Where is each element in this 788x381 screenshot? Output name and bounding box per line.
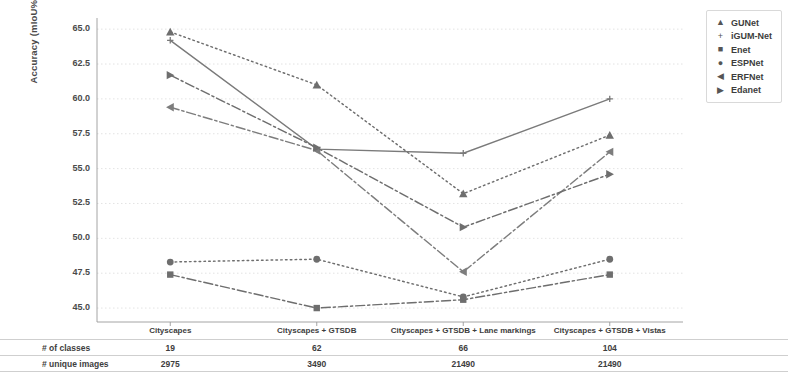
x-category-4: Cityscapes + GTSDB + Vistas [500, 326, 720, 335]
gridlines [97, 29, 683, 308]
line-chart-svg [0, 0, 788, 381]
legend-label: iGUM-Net [731, 31, 772, 41]
series-espnet [167, 256, 613, 300]
legend-item-edanet[interactable]: ▶Edanet [713, 84, 772, 98]
legend-marker-icon: ◀ [713, 72, 728, 81]
table-cell: 104 [537, 343, 684, 353]
legend-item-erfnet[interactable]: ◀ERFNet [713, 70, 772, 84]
table-cell: 66 [390, 343, 537, 353]
table-row: # unique images297534902149021490 [0, 356, 788, 372]
table-cell: 62 [244, 343, 391, 353]
chart-legend: ▲GUNet+iGUM-Net■Enet●ESPNet◀ERFNet▶Edane… [706, 10, 782, 103]
legend-label: ESPNet [731, 58, 764, 68]
series-layer [166, 28, 614, 312]
plot-area: Accuracy (mIoU%) 45.047.550.052.555.057.… [0, 0, 788, 381]
legend-marker-icon: ■ [713, 45, 728, 54]
legend-label: GUNet [731, 18, 759, 28]
table-cell: 19 [97, 343, 244, 353]
annotation-table: # of classes196266104# unique images2975… [0, 339, 788, 372]
legend-marker-icon: + [713, 32, 728, 41]
legend-marker-icon: ▲ [713, 18, 728, 27]
chart-page: Accuracy (mIoU%) 45.047.550.052.555.057.… [0, 0, 788, 381]
table-row: # of classes196266104 [0, 339, 788, 356]
table-cell: 2975 [97, 359, 244, 369]
legend-item-gunet[interactable]: ▲GUNet [713, 16, 772, 30]
table-cell: 3490 [244, 359, 391, 369]
table-cell: 21490 [537, 359, 684, 369]
series-gunet [166, 28, 614, 198]
legend-item-igum-net[interactable]: +iGUM-Net [713, 30, 772, 44]
table-cell: 21490 [390, 359, 537, 369]
legend-marker-icon: ▶ [713, 86, 728, 95]
legend-label: ERFNet [731, 72, 764, 82]
legend-label: Enet [731, 45, 751, 55]
legend-label: Edanet [731, 85, 761, 95]
series-erfnet [166, 103, 613, 276]
legend-marker-icon: ● [713, 59, 728, 68]
legend-item-espnet[interactable]: ●ESPNet [713, 57, 772, 71]
legend-item-enet[interactable]: ■Enet [713, 43, 772, 57]
